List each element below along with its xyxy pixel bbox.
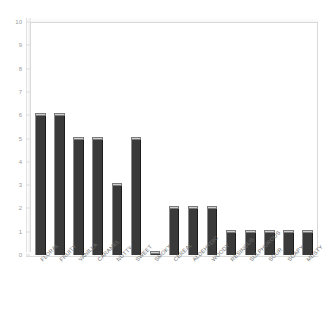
bar-slot (169, 22, 179, 255)
bar-top-face (188, 206, 198, 209)
bar-chart: 012345678910 FLORALFRUITYVANILLACARAMELN… (0, 0, 328, 323)
bar-top-face (73, 137, 83, 140)
y-axis-tick-mark (26, 68, 30, 69)
y-axis-tick-mark (26, 255, 30, 256)
bar-slot (35, 22, 45, 255)
y-axis-tick-mark (26, 138, 30, 139)
bar-top-face (245, 230, 255, 233)
y-axis-tick-mark (26, 91, 30, 92)
y-axis-tick-label: 0 (19, 252, 22, 258)
bar (54, 115, 64, 255)
y-axis-tick-label: 4 (19, 159, 22, 165)
y-axis-tick-label: 3 (19, 182, 22, 188)
y-axis-tick-mark (26, 22, 30, 23)
bar (73, 139, 83, 256)
bar-top-face (112, 183, 122, 186)
bar-series (31, 22, 317, 255)
bar-slot (188, 22, 198, 255)
bar-slot (73, 22, 83, 255)
y-axis: 012345678910 (0, 22, 30, 256)
bar-slot (54, 22, 64, 255)
bar (131, 139, 141, 256)
y-axis-tick-mark (26, 185, 30, 186)
x-axis-category-labels: FLORALFRUITYVANILLACARAMELNUTTYSWEETSMOK… (31, 257, 317, 323)
bar (92, 139, 102, 256)
bar-slot (302, 22, 312, 255)
bar-slot (245, 22, 255, 255)
y-axis-tick-label: 7 (19, 89, 22, 95)
bar-top-face (54, 113, 64, 116)
y-axis-tick-mark (26, 161, 30, 162)
bar-slot (112, 22, 122, 255)
y-axis-tick-label: 1 (19, 229, 22, 235)
bar-top-face (283, 230, 293, 233)
bar-slot (92, 22, 102, 255)
y-axis-tick-label: 10 (15, 19, 22, 25)
bar-slot (150, 22, 160, 255)
bar-slot (131, 22, 141, 255)
y-axis-tick-label: 6 (19, 112, 22, 118)
bar-top-face (35, 113, 45, 116)
bar-slot (207, 22, 217, 255)
bar-top-face (226, 230, 236, 233)
bar-top-face (131, 137, 141, 140)
bar-slot (283, 22, 293, 255)
bar-slot (264, 22, 274, 255)
bar-top-face (92, 137, 102, 140)
bar-top-face (302, 230, 312, 233)
y-axis-tick-mark (26, 115, 30, 116)
bar-top-face (207, 206, 217, 209)
bar (35, 115, 45, 255)
y-axis-tick-mark (26, 231, 30, 232)
y-axis-tick-label: 2 (19, 205, 22, 211)
y-axis-tick-label: 8 (19, 66, 22, 72)
y-axis-tick-label: 5 (19, 136, 22, 142)
y-axis-tick-mark (26, 45, 30, 46)
bar-slot (226, 22, 236, 255)
bar-top-face (169, 206, 179, 209)
y-axis-tick-label: 9 (19, 42, 22, 48)
y-axis-tick-mark (26, 208, 30, 209)
